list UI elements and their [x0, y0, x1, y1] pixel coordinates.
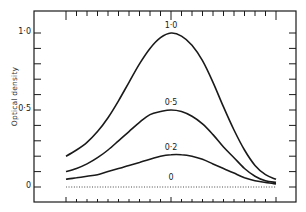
y-tick-label: 1·0: [18, 27, 31, 36]
y-axis-label: Optical density: [10, 57, 19, 137]
x-axis-ticks-bottom: [66, 197, 276, 202]
y-tick-label: 0: [26, 181, 31, 190]
data-series: [66, 33, 276, 187]
curve-label: 0·5: [165, 98, 178, 107]
curve-label: 1·0: [165, 21, 178, 30]
curve-label: 0·2: [165, 143, 178, 152]
curve-label: 0: [168, 173, 173, 182]
chart-plot: [0, 0, 306, 212]
x-axis-ticks-top: [66, 11, 276, 20]
y-axis-ticks-right: [289, 33, 296, 187]
y-tick-label: 0·5: [18, 104, 31, 113]
y-axis-ticks-left: [34, 33, 41, 187]
